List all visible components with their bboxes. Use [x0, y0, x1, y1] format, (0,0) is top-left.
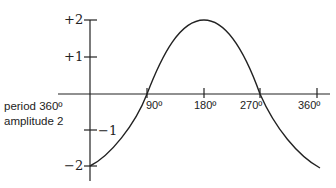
y-label-minus1: −1	[98, 123, 117, 138]
amplitude-annotation: amplitude 2	[4, 114, 63, 129]
y-label-plus1: +1	[64, 49, 83, 64]
x-label-180: 180º	[194, 99, 216, 111]
x-label-360: 360º	[298, 99, 320, 111]
period-annotation: period 360º	[4, 99, 63, 114]
y-label-plus2: +2	[64, 12, 83, 27]
chart: +2 +1 −1 −2 90º 180º 270º 360º	[0, 0, 336, 188]
x-label-90: 90º	[146, 99, 162, 111]
x-label-270: 270º	[240, 99, 262, 111]
y-label-minus2: −2	[64, 158, 83, 173]
